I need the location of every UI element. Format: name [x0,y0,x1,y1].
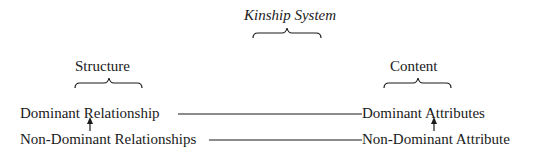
structure-label: Structure [75,59,130,74]
structure-brace-icon [75,78,142,88]
dominant-attributes-label: Dominant Attributes [362,106,485,121]
non-dominant-relationships-label: Non-Dominant Relationships [20,132,196,147]
kinship-system-title: Kinship System [244,8,336,23]
kinship-brace-icon [253,28,321,38]
content-brace-icon [384,78,451,88]
dominant-relationship-label: Dominant Relationship [20,106,160,121]
non-dominant-attribute-label: Non-Dominant Attribute [362,132,510,147]
content-label: Content [390,59,438,74]
